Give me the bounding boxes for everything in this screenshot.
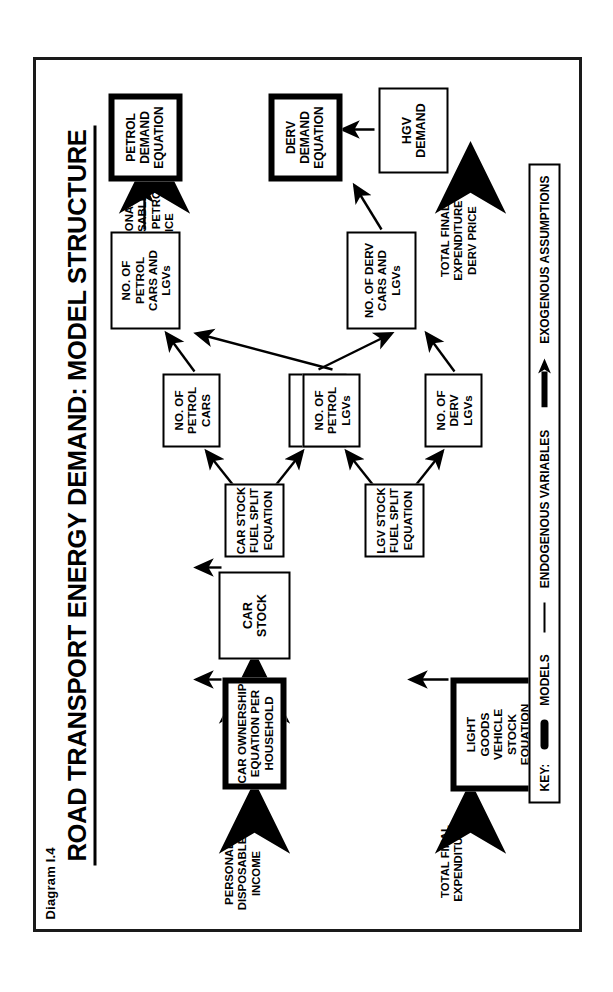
connector-layer — [36, 60, 579, 929]
key-entry-exogenous-label: EXOGENOUS ASSUMPTIONS — [537, 175, 551, 343]
wire-derv-cars-to-derv-cars-lgvs — [318, 333, 391, 369]
wire-fuelsplit-to-derv-cars — [275, 451, 302, 485]
box-no-of-petrol-cars-and-lgvs[interactable]: NO. OF PETROL CARS AND LGVs — [110, 231, 180, 329]
box-lgv-stock-fuel-split-equation[interactable]: LGV STOCK FUEL SPLIT EQUATION — [364, 483, 424, 557]
endogenous-line-icon — [543, 602, 545, 632]
wire-petrol-lgvs-to-petrol-cars-lgvs — [196, 333, 332, 369]
key-legend: KEY: MODELS ENDOGENOUS VARIABLES EXOGENO… — [528, 163, 560, 803]
exogenous-arrow-icon — [537, 357, 551, 407]
models-bar-icon — [540, 719, 548, 749]
diagram-frame: Diagram I.4 ROAD TRANSPORT ENERGY DEMAND… — [33, 57, 582, 932]
box-no-of-petrol-lgvs[interactable]: NO. OF PETROL LGVs — [302, 373, 360, 447]
diagram-canvas: Diagram I.4 ROAD TRANSPORT ENERGY DEMAND… — [36, 60, 579, 929]
wire-lgvfuelsplit-to-derv-lgvs — [415, 451, 442, 485]
box-hgv-demand[interactable]: HGV DEMAND — [378, 87, 448, 173]
wire-derv-cars-lgvs-to-derv-demand — [354, 185, 381, 229]
box-petrol-demand-equation[interactable]: PETROL DEMAND EQUATION — [108, 93, 182, 181]
wire-derv-lgvs-to-derv-cars-lgvs — [426, 333, 454, 371]
exogenous-label-personal-disposable-income: PERSONAL DISPOSABLE INCOME — [222, 817, 262, 929]
box-no-of-derv-lgvs[interactable]: NO. OF DERV LGVs — [424, 373, 482, 447]
box-derv-demand-equation[interactable]: DERV DEMAND EQUATION — [268, 93, 342, 181]
key-entry-endogenous-label: ENDOGENOUS VARIABLES — [537, 429, 551, 587]
box-no-of-derv-cars-and-lgvs[interactable]: NO. OF DERV CARS AND LGVs — [346, 231, 416, 329]
wire-lgvfuelsplit-to-petrol-lgvs — [346, 451, 373, 485]
diagram-page: Diagram I.4 ROAD TRANSPORT ENERGY DEMAND… — [0, 0, 613, 992]
exogenous-label-total-final-expenditure: TOTAL FINAL EXPENDITURE — [438, 813, 465, 909]
wire-fuelsplit-to-petrol-cars — [206, 451, 233, 485]
box-car-stock-fuel-split-equation[interactable]: CAR STOCK FUEL SPLIT EQUATION — [224, 483, 284, 557]
exogenous-label-tfe-derv-price: TOTAL FINAL EXPENDITURE DERV PRICE — [438, 169, 478, 311]
box-car-ownership-equation[interactable]: CAR OWNERSHIP EQUATION PER HOUSEHOLD — [222, 677, 286, 789]
key-entry-models-label: MODELS — [537, 654, 551, 705]
key-title: KEY: — [537, 763, 551, 791]
box-no-of-petrol-cars[interactable]: NO. OF PETROL CARS — [162, 373, 220, 447]
wire-petrolcars-to-petrol-cars-lgvs — [166, 333, 194, 371]
box-car-stock[interactable]: CAR STOCK — [218, 571, 290, 659]
rotated-canvas-wrapper: Diagram I.4 ROAD TRANSPORT ENERGY DEMAND… — [36, 60, 579, 929]
